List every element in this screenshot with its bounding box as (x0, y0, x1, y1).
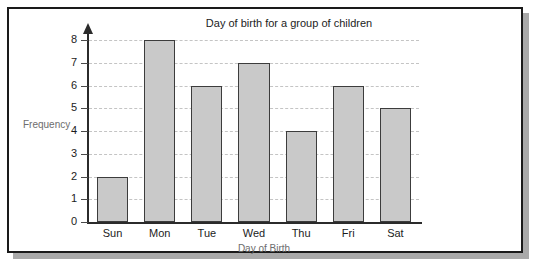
figure-frame: Day of birth for a group of children 012… (7, 7, 523, 253)
y-axis-title: Frequency (23, 119, 70, 130)
x-axis-title: Day of Birth (89, 243, 439, 254)
x-tick-label-fri: Fri (325, 228, 372, 239)
x-tick-label-thu: Thu (278, 228, 325, 239)
y-tick-label: 5 (57, 102, 77, 113)
chart-title: Day of birth for a group of children (89, 17, 489, 29)
y-tick-label: 2 (57, 171, 77, 182)
y-tick-mark (81, 222, 88, 223)
bar-sun (97, 177, 128, 223)
y-tick-mark (81, 108, 88, 109)
y-tick-mark (81, 40, 88, 41)
y-tick-label: 7 (57, 57, 77, 68)
x-tick-label-wed: Wed (230, 228, 277, 239)
x-axis-line (87, 222, 422, 224)
y-axis-line (87, 33, 89, 223)
y-tick-label: 1 (57, 193, 77, 204)
bar-chart: Day of birth for a group of children 012… (9, 9, 521, 251)
x-tick-label-tue: Tue (183, 228, 230, 239)
y-tick-mark (81, 199, 88, 200)
bar-sat (380, 108, 411, 222)
y-tick-label: 6 (57, 80, 77, 91)
bar-mon (144, 40, 175, 222)
y-tick-label: 3 (57, 148, 77, 159)
chart-figure: Day of birth for a group of children 012… (0, 0, 535, 267)
plot-area (89, 40, 419, 222)
gridline (89, 40, 419, 41)
bar-wed (238, 63, 269, 222)
y-tick-mark (81, 177, 88, 178)
x-tick-label-mon: Mon (136, 228, 183, 239)
bar-fri (333, 86, 364, 223)
bar-tue (191, 86, 222, 223)
y-tick-mark (81, 86, 88, 87)
y-tick-mark (81, 63, 88, 64)
y-tick-label: 8 (57, 34, 77, 45)
y-tick-mark (81, 154, 88, 155)
bar-thu (286, 131, 317, 222)
x-tick-label-sat: Sat (372, 228, 419, 239)
y-tick-mark (81, 131, 88, 132)
y-tick-label: 0 (57, 216, 77, 227)
x-tick-label-sun: Sun (89, 228, 136, 239)
